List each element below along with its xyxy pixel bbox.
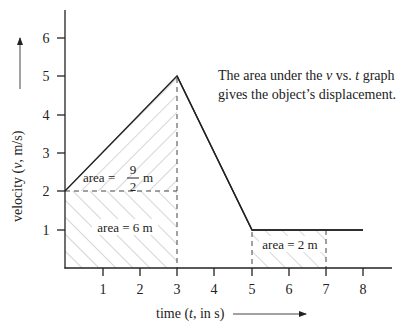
svg-text:9: 9 xyxy=(130,162,137,177)
y-tick-label: 4 xyxy=(43,108,50,123)
x-tick-label: 3 xyxy=(174,282,181,297)
y-tick-label: 2 xyxy=(43,184,50,199)
svg-text:time (t, in s): time (t, in s) xyxy=(156,306,225,322)
area-label-rect-5-7: area = 2 m xyxy=(262,237,317,252)
svg-text:The area under the v vs. t gra: The area under the v vs. t graph xyxy=(218,68,395,83)
x-tick-label: 8 xyxy=(360,282,367,297)
svg-text:2: 2 xyxy=(130,179,137,194)
y-ticks xyxy=(57,38,65,230)
x-tick-label: 7 xyxy=(323,282,330,297)
svg-text:gives the object’s displacemen: gives the object’s displacement. xyxy=(218,87,396,102)
y-axis-label: velocity (v, m/s) xyxy=(10,38,26,222)
x-tick-label: 1 xyxy=(100,282,107,297)
x-tick-label: 4 xyxy=(211,282,218,297)
x-tick-labels: 1 2 3 4 5 6 7 8 xyxy=(100,282,367,297)
area-label-rect-0-3: area = 6 m xyxy=(97,220,152,235)
x-tick-label: 5 xyxy=(249,282,256,297)
svg-text:m: m xyxy=(143,170,153,185)
y-tick-label: 3 xyxy=(43,146,50,161)
x-tick-label: 6 xyxy=(286,282,293,297)
velocity-time-chart: 1 2 3 4 5 6 1 2 3 4 5 6 7 8 area = 9 2 m xyxy=(0,0,402,336)
svg-text:velocity (v, m/s): velocity (v, m/s) xyxy=(10,130,26,222)
x-axis-label: time (t, in s) xyxy=(156,306,306,322)
y-tick-label: 6 xyxy=(43,31,50,46)
x-tick-label: 2 xyxy=(137,282,144,297)
annotation: The area under the v vs. t graph gives t… xyxy=(218,68,396,102)
y-tick-label: 1 xyxy=(43,223,50,238)
y-tick-labels: 1 2 3 4 5 6 xyxy=(43,31,50,238)
y-tick-label: 5 xyxy=(43,69,50,84)
svg-text:area =: area = xyxy=(83,170,115,185)
x-ticks xyxy=(103,268,363,276)
